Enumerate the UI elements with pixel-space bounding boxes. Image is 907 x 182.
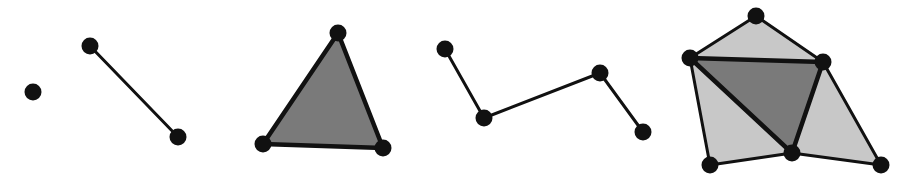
vertex: [476, 110, 493, 127]
vertex: [592, 65, 609, 82]
vertex: [748, 8, 765, 25]
face-dark: [263, 33, 383, 148]
panel-0-simplex: [25, 84, 42, 101]
vertex: [784, 145, 801, 162]
panel-1-complex: [437, 41, 652, 141]
edge: [484, 73, 600, 118]
vertex: [815, 54, 832, 71]
diagram-canvas: [0, 0, 907, 182]
panel-1-simplex: [82, 38, 187, 146]
vertex: [375, 140, 392, 157]
vertex: [682, 50, 699, 67]
simplicial-complex-diagram: Simplices and simplicial complexes: [0, 0, 907, 182]
vertex: [330, 25, 347, 42]
vertex: [702, 157, 719, 174]
vertex: [25, 84, 42, 101]
edge: [90, 46, 178, 137]
panel-2-complex: [682, 8, 890, 174]
panel-2-simplex: [255, 25, 392, 157]
edge: [445, 49, 484, 118]
vertex: [170, 129, 187, 146]
vertex: [82, 38, 99, 55]
edge: [600, 73, 643, 132]
vertex: [873, 157, 890, 174]
vertex: [437, 41, 454, 58]
vertex: [635, 124, 652, 141]
vertex: [255, 136, 272, 153]
